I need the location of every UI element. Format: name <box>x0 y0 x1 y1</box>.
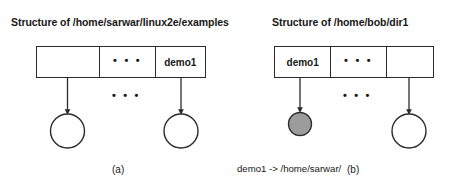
panel-a-subfigure-label: (a) <box>112 164 124 175</box>
panel-a-dir-cell-demo1: demo1 <box>155 47 205 77</box>
panel-b-inode-symlink-demo1 <box>289 113 312 136</box>
panel-b-dir-cell-3 <box>386 47 433 77</box>
panel-a-directory-table: • • • demo1 <box>36 46 206 78</box>
panel-b-inode-empty-right <box>392 114 426 148</box>
panel-a-dir-cell-ellipsis: • • • <box>99 47 154 77</box>
panel-b-directory-table: demo1 • • • <box>274 46 434 78</box>
panel-b-symlink-caption: demo1 -> /home/sarwar/ linux2e/examples/… <box>237 136 343 188</box>
panel-a-middle-ellipsis: • • • <box>112 90 141 101</box>
figure-root: Structure of /home/sarwar/linux2e/exampl… <box>0 0 453 188</box>
panel-a-inode-demo1-target <box>164 114 198 148</box>
panel-a-dir-cell-1 <box>37 47 99 77</box>
panel-a-inode-empty-left <box>51 114 85 148</box>
panel-b-symlink-caption-line1: demo1 -> /home/sarwar/ <box>237 162 343 175</box>
panel-b-subfigure-label: (b) <box>347 164 359 175</box>
panel-b-middle-ellipsis: • • • <box>343 90 372 101</box>
panel-b-title: Structure of /home/bob/dir1 <box>272 16 408 28</box>
panel-b-dir-cell-demo1: demo1 <box>275 47 330 77</box>
panel-b-dir-cell-ellipsis: • • • <box>330 47 385 77</box>
panel-a-title: Structure of /home/sarwar/linux2e/exampl… <box>11 16 229 28</box>
connector-overlay <box>0 0 453 188</box>
